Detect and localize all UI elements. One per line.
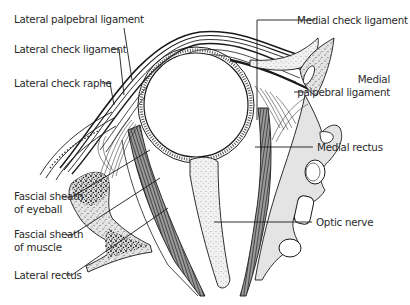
label-lateral-check-ligament: Lateral check ligament [14, 43, 127, 56]
label-medial-palpebral-ligament: Medial palpebral ligament [297, 73, 390, 99]
label-fascial-sheath-eyeball: Fascial sheath of eyeball [14, 190, 83, 216]
label-fascial-sheath-eyeball-line1: Fascial sheath [14, 190, 83, 203]
label-medial-check-ligament: Medial check ligament [297, 14, 408, 27]
lateral-eyelid [40, 112, 116, 180]
orbit-diagram: Lateral palpebral ligament Lateral check… [0, 0, 410, 305]
label-medial-rectus: Medial rectus [317, 141, 383, 154]
label-fascial-sheath-eyeball-line2: of eyeball [14, 203, 83, 216]
label-fascial-sheath-muscle-line1: Fascial sheath [14, 228, 83, 241]
optic-nerve [190, 157, 230, 288]
label-fascial-sheath-muscle-line2: of muscle [14, 241, 83, 254]
label-lateral-check-raphe: Lateral check raphe [14, 77, 112, 90]
label-fascial-sheath-muscle: Fascial sheath of muscle [14, 228, 83, 254]
eyeball [138, 47, 254, 163]
lateral-orbital-wall [69, 172, 152, 272]
label-medial-palpebral-ligament-line1: Medial [297, 73, 390, 86]
label-optic-nerve: Optic nerve [316, 216, 373, 229]
label-medial-palpebral-ligament-line2: palpebral ligament [297, 86, 390, 99]
label-lateral-rectus: Lateral rectus [14, 269, 82, 282]
label-lateral-palpebral-ligament: Lateral palpebral ligament [14, 13, 144, 26]
